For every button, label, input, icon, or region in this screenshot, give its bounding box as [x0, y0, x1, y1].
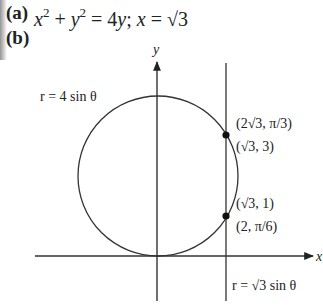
line-label: r = √3 sin θ [232, 278, 297, 293]
lower-point-cartesian: (√3, 1) [236, 196, 274, 212]
intersection-point-lower [222, 212, 229, 219]
upper-point-cartesian: (√3, 3) [236, 139, 274, 155]
y-axis-label: y [151, 42, 160, 57]
upper-point-polar: (2√3, π/3) [236, 116, 292, 132]
lower-point-polar: (2, π/6) [236, 219, 278, 235]
x-axis-label: x [315, 249, 323, 264]
intersection-point-upper [222, 131, 229, 138]
polar-figure: y x r = 4 sin θ r = √3 sin θ (2√3, π/3) … [0, 0, 323, 305]
circle-curve [78, 96, 238, 256]
circle-label: r = 4 sin θ [40, 89, 97, 104]
